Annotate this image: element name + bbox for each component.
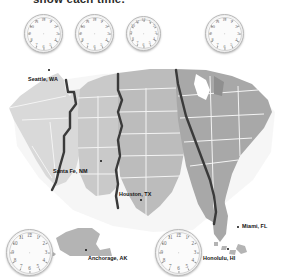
clock-numeral: 10 xyxy=(13,242,18,247)
clock-numeral: 6 xyxy=(93,45,95,49)
clock-eastern[interactable]: 121234567891011 xyxy=(205,14,244,53)
city-label-houston: Houston, TX xyxy=(119,191,151,197)
clock-numeral: 8 xyxy=(82,38,84,42)
clock-center-dot xyxy=(43,33,45,35)
clock-numeral: 7 xyxy=(87,43,89,47)
clock-numeral: 2 xyxy=(153,25,155,29)
clock-numeral: 5 xyxy=(100,43,102,47)
clock-numeral: 6 xyxy=(223,45,225,49)
clock-numeral: 4 xyxy=(153,38,155,42)
clock-numeral: 1 xyxy=(49,20,51,24)
city-label-anchorage: Anchorage, AK xyxy=(88,255,127,261)
clock-center-dot xyxy=(143,33,145,35)
clock-numeral: 6 xyxy=(42,45,44,49)
clock-numeral: 10 xyxy=(211,25,215,29)
clock-numeral: 2 xyxy=(43,242,46,247)
clock-numeral: 12 xyxy=(92,18,96,22)
clock-numeral: 4 xyxy=(235,38,237,42)
clock-numeral: 4 xyxy=(192,258,195,263)
clock-center-dot xyxy=(224,33,226,35)
clock-numeral: 8 xyxy=(212,38,214,42)
clock-numeral: 8 xyxy=(163,258,166,263)
city-label-miami: Miami, FL xyxy=(242,223,267,229)
clock-numeral: 12 xyxy=(176,233,181,238)
clock-center-dot xyxy=(94,33,96,35)
clock-numeral: 12 xyxy=(41,18,45,22)
clock-numeral: 10 xyxy=(162,242,167,247)
clock-numeral: 12 xyxy=(222,18,226,22)
clock-numeral: 3 xyxy=(237,31,239,35)
clock-numeral: 2 xyxy=(235,25,237,29)
clock-numeral: 12 xyxy=(142,19,146,23)
clock-center-dot xyxy=(29,252,31,254)
clock-numeral: 5 xyxy=(230,43,232,47)
clock-numeral: 1 xyxy=(230,20,232,24)
time-zone-map: Seattle, WA Santa Fe, NM Houston, TX Mia… xyxy=(0,56,284,256)
clock-numeral: 1 xyxy=(149,21,151,25)
clock-numeral: 10 xyxy=(81,25,85,29)
clock-numeral: 9 xyxy=(210,31,212,35)
clock-pacific[interactable]: 121234567891011 xyxy=(24,14,63,53)
clock-numeral: 7 xyxy=(136,42,138,46)
city-label-honolulu: Honolulu, HI xyxy=(203,255,235,261)
clock-numeral: 12 xyxy=(27,233,32,238)
clock-numeral: 9 xyxy=(29,31,31,35)
clock-numeral: 8 xyxy=(31,38,33,42)
city-label-santa-fe: Santa Fe, NM xyxy=(53,168,87,174)
clock-numeral: 7 xyxy=(36,43,38,47)
clock-numeral: 10 xyxy=(131,25,135,29)
clock-numeral: 8 xyxy=(14,258,17,263)
clock-mountain[interactable]: 121234567891011 xyxy=(75,14,114,53)
clock-numeral: 1 xyxy=(186,235,189,240)
clock-central[interactable]: 121234567891011 xyxy=(126,16,161,51)
clock-numeral: 9 xyxy=(12,250,15,255)
clock-numeral: 3 xyxy=(56,31,58,35)
clock-numeral: 7 xyxy=(217,43,219,47)
clock-numeral: 1 xyxy=(37,235,40,240)
clock-numeral: 7 xyxy=(20,264,23,269)
clock-numeral: 11 xyxy=(216,20,220,24)
hawaii-islands xyxy=(214,242,247,255)
clock-numeral: 5 xyxy=(37,264,40,269)
clock-numeral: 4 xyxy=(43,258,46,263)
clock-numeral: 2 xyxy=(54,25,56,29)
city-label-seattle: Seattle, WA xyxy=(28,76,58,82)
clock-numeral: 10 xyxy=(30,25,34,29)
clock-numeral: 6 xyxy=(28,267,31,272)
clock-numeral: 2 xyxy=(192,242,195,247)
clock-alaska[interactable]: 121234567891011 xyxy=(6,229,53,276)
clock-numeral: 9 xyxy=(161,250,164,255)
clock-numeral: 11 xyxy=(86,20,90,24)
clock-numeral: 11 xyxy=(168,235,173,240)
clock-numeral: 9 xyxy=(80,31,82,35)
clock-numeral: 5 xyxy=(49,43,51,47)
clock-hawaii[interactable]: 121234567891011 xyxy=(155,229,202,276)
clock-center-dot xyxy=(178,252,180,254)
clock-numeral: 4 xyxy=(105,38,107,42)
worksheet-heading: show each time. xyxy=(33,0,253,3)
clock-numeral: 11 xyxy=(136,21,140,25)
clock-numeral: 9 xyxy=(130,32,132,36)
zone-mountain xyxy=(78,73,118,196)
clock-numeral: 7 xyxy=(169,264,172,269)
clock-numeral: 2 xyxy=(105,25,107,29)
clock-numeral: 3 xyxy=(194,250,197,255)
clock-numeral: 11 xyxy=(19,235,24,240)
clock-numeral: 3 xyxy=(45,250,48,255)
clock-numeral: 3 xyxy=(107,31,109,35)
clock-numeral: 8 xyxy=(132,38,134,42)
clock-numeral: 5 xyxy=(149,42,151,46)
clock-numeral: 6 xyxy=(177,267,180,272)
clock-numeral: 11 xyxy=(35,20,39,24)
clock-numeral: 6 xyxy=(143,44,145,48)
clock-numeral: 5 xyxy=(186,264,189,269)
clock-numeral: 3 xyxy=(155,32,157,36)
clock-numeral: 4 xyxy=(54,38,56,42)
clock-numeral: 1 xyxy=(100,20,102,24)
